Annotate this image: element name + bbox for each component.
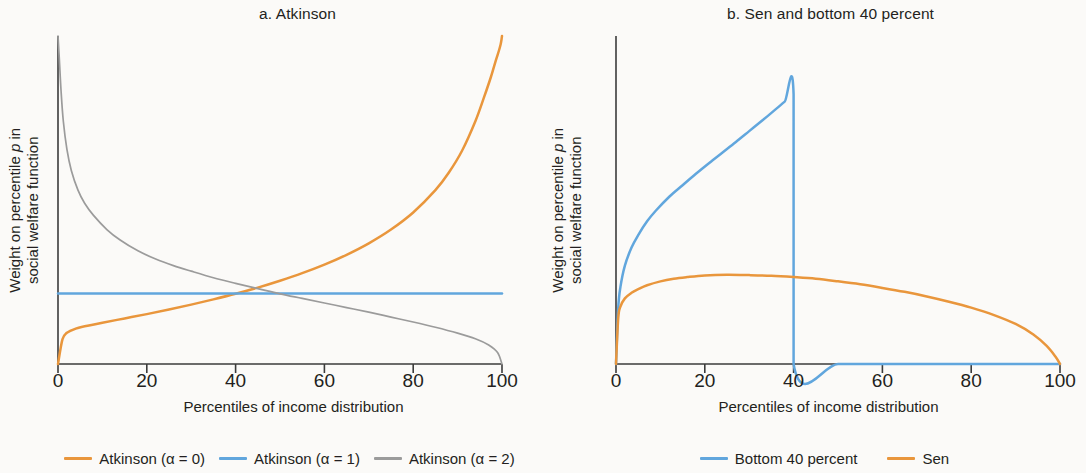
legend-swatch-icon <box>64 457 92 460</box>
series-line <box>616 76 1060 384</box>
x-tick-label: 80 <box>403 370 424 392</box>
figure-two-panel-chart: a. Atkinson Weight on percentile p in so… <box>0 0 1086 473</box>
series-line <box>58 36 502 364</box>
x-tick-label: 20 <box>694 370 715 392</box>
legend-swatch-icon <box>219 457 247 460</box>
x-tick-label: 100 <box>1044 370 1076 392</box>
legend-label: Atkinson (α = 2) <box>409 450 515 467</box>
legend-item[interactable]: Sen <box>887 450 949 467</box>
legend-swatch-icon <box>700 457 728 460</box>
panel-atkinson: a. Atkinson Weight on percentile p in so… <box>0 0 543 473</box>
x-tick-label: 60 <box>314 370 335 392</box>
panel-b-series <box>616 76 1060 384</box>
panel-sen-bottom40: b. Sen and bottom 40 percent Weight on p… <box>543 0 1086 473</box>
x-tick-label: 80 <box>961 370 982 392</box>
x-tick-label: 0 <box>611 370 622 392</box>
legend-item[interactable]: Bottom 40 percent <box>700 450 858 467</box>
panel-b-axes <box>616 36 1060 373</box>
x-tick-label: 40 <box>225 370 246 392</box>
legend-label: Bottom 40 percent <box>735 450 858 467</box>
x-tick-label: 0 <box>53 370 64 392</box>
legend-swatch-icon <box>887 457 915 460</box>
panel-a-x-axis-label: Percentiles of income distribution <box>0 398 565 415</box>
legend-item[interactable]: Atkinson (α = 2) <box>374 450 515 467</box>
legend-label: Atkinson (α = 0) <box>99 450 205 467</box>
panel-a-series <box>58 36 502 364</box>
legend-item[interactable]: Atkinson (α = 0) <box>64 450 205 467</box>
x-tick-label: 100 <box>486 370 518 392</box>
x-tick-label: 20 <box>136 370 157 392</box>
panel-a-legend: Atkinson (α = 0)Atkinson (α = 1)Atkinson… <box>0 450 561 467</box>
legend-label: Sen <box>922 450 949 467</box>
panel-a-axes <box>58 36 502 373</box>
x-tick-label: 40 <box>783 370 804 392</box>
panel-b-legend: Bottom 40 percentSen <box>543 450 1086 467</box>
series-line <box>616 275 1060 364</box>
legend-label: Atkinson (α = 1) <box>254 450 360 467</box>
x-tick-label: 60 <box>872 370 893 392</box>
panel-b-x-axis-label: Percentiles of income distribution <box>543 398 1086 415</box>
legend-swatch-icon <box>374 457 402 460</box>
series-line <box>58 36 502 364</box>
legend-item[interactable]: Atkinson (α = 1) <box>219 450 360 467</box>
